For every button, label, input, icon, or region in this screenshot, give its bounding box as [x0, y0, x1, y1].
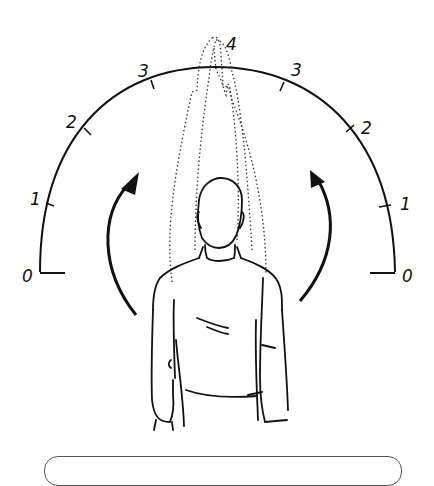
- left-label-0: 0: [22, 266, 33, 286]
- left-tick-2: [84, 128, 91, 135]
- right-label-0: 0: [402, 266, 413, 286]
- right-arrow-icon: [300, 170, 330, 301]
- right-tick-1: [379, 205, 391, 207]
- raised-arms-dotted: [170, 37, 266, 282]
- left-label-1: 1: [30, 189, 41, 209]
- left-label-2: 2: [66, 112, 77, 132]
- right-label-3: 3: [291, 60, 302, 80]
- caption-box: [44, 456, 402, 486]
- right-label-2: 2: [361, 118, 372, 138]
- left-tick-3: [151, 80, 154, 89]
- head: [198, 178, 242, 248]
- range-arc: [40, 67, 395, 272]
- left-arrow-icon: [108, 172, 139, 315]
- right-tick-3: [280, 82, 284, 91]
- person-figure: [152, 178, 288, 430]
- left-label-3: 3: [138, 61, 149, 81]
- right-label-1: 1: [400, 194, 411, 214]
- top-label-4: 4: [226, 34, 237, 54]
